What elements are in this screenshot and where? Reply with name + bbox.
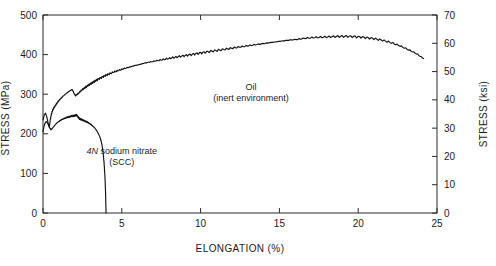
- bottom-ticklabel: 5: [119, 218, 125, 229]
- left-ticklabel: 500: [20, 10, 37, 21]
- bottom-ticklabel: 10: [195, 218, 207, 229]
- right-ticklabel: 30: [444, 123, 456, 134]
- annotation-oil-line2: (inert environment): [213, 93, 289, 103]
- stress-strain-chart: 0100200300400500 010203040506070 0510152…: [0, 0, 496, 266]
- left-ticklabel: 300: [20, 89, 37, 100]
- x-axis-title: ELONGATION (%): [196, 243, 285, 254]
- right-ticklabel: 20: [444, 151, 456, 162]
- left-ticklabel: 100: [20, 168, 37, 179]
- right-ticklabel: 60: [444, 38, 456, 49]
- chart-svg: 0100200300400500 010203040506070 0510152…: [0, 0, 496, 266]
- bottom-ticklabel: 25: [431, 218, 443, 229]
- y2-axis-title: STRESS (ksi): [478, 81, 489, 147]
- annotation-oil-line1: Oil: [246, 82, 257, 92]
- bottom-ticklabel: 15: [274, 218, 286, 229]
- chart-background: [0, 0, 496, 266]
- right-ticklabel: 50: [444, 66, 456, 77]
- right-ticklabel: 0: [444, 208, 450, 219]
- left-ticklabel: 400: [20, 49, 37, 60]
- y-axis-title: STRESS (MPa): [0, 81, 11, 156]
- annotation-scc-line2: (SCC): [109, 157, 134, 167]
- right-ticklabel: 10: [444, 179, 456, 190]
- right-ticklabel: 70: [444, 10, 456, 21]
- bottom-ticklabel: 0: [40, 218, 46, 229]
- annotation-scc-line1: 4N sodium nitrate: [87, 146, 158, 156]
- left-ticklabel: 200: [20, 128, 37, 139]
- bottom-ticklabel: 20: [353, 218, 365, 229]
- right-ticklabel: 40: [444, 94, 456, 105]
- left-ticklabel: 0: [31, 208, 37, 219]
